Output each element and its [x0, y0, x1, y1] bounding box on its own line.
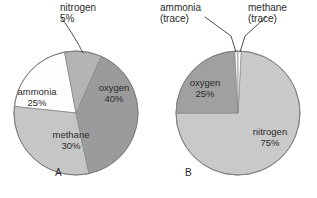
figure-canvas: nitrogen 5% oxygen 40% methane 30% ammon… — [0, 0, 317, 198]
pie-a-oxygen-value: 40% — [92, 93, 136, 104]
pie-a-panel-letter: A — [55, 167, 62, 178]
pie-a-methane-label: methane 30% — [48, 129, 94, 151]
pie-b-nitrogen-label: nitrogen 75% — [245, 126, 295, 148]
pie-a-oxygen-name: oxygen — [92, 82, 136, 93]
pie-b-oxygen-value: 25% — [183, 88, 227, 99]
pie-a-nitrogen-value: 5% — [60, 13, 96, 24]
pie-a-ammonia-label: ammonia 25% — [12, 86, 62, 108]
pie-b-panel-letter: B — [185, 167, 192, 178]
pie-b-oxygen-name: oxygen — [183, 77, 227, 88]
pie-a-methane-value: 30% — [48, 140, 94, 151]
pie-b-ammonia-callout-label: ammonia (trace) — [160, 2, 201, 24]
pie-b-ammonia-leader-line — [205, 17, 236, 52]
pie-b-oxygen-label: oxygen 25% — [183, 77, 227, 99]
pie-a-methane-name: methane — [48, 129, 94, 140]
pie-a-nitrogen-callout-label: nitrogen 5% — [60, 2, 96, 24]
pie-b-nitrogen-value: 75% — [245, 137, 295, 148]
pie-b-methane-name: methane — [248, 2, 287, 13]
pie-b-ammonia-value: (trace) — [160, 13, 201, 24]
pie-a-ammonia-value: 25% — [12, 97, 62, 108]
pie-b-methane-value: (trace) — [248, 13, 287, 24]
pie-b-methane-callout-label: methane (trace) — [248, 2, 287, 24]
pie-a-nitrogen-name: nitrogen — [60, 2, 96, 13]
pie-a-oxygen-label: oxygen 40% — [92, 82, 136, 104]
pie-b-ammonia-name: ammonia — [160, 2, 201, 13]
pie-a-ammonia-name: ammonia — [12, 86, 62, 97]
pie-b-nitrogen-name: nitrogen — [245, 126, 295, 137]
